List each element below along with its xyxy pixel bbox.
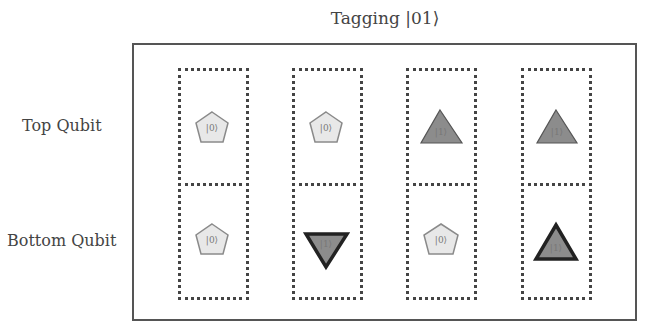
col4-bottom-triangle-up-icon: |1⟩ bbox=[536, 225, 576, 259]
ket-label: |0⟩ bbox=[206, 123, 218, 134]
col2-bottom-triangle-down-icon: |1⟩ bbox=[306, 234, 347, 267]
qubit-shapes: |0⟩ |0⟩ |0⟩ |1⟩ |1⟩ |0⟩ |1⟩ |1⟩ bbox=[0, 0, 650, 333]
col3-top-triangle-up-icon: |1⟩ bbox=[421, 110, 462, 143]
col2-top-pentagon-icon: |0⟩ bbox=[310, 112, 342, 142]
ket-label: |1⟩ bbox=[435, 127, 447, 138]
ket-label: |1⟩ bbox=[550, 243, 562, 254]
col1-top-pentagon-icon: |0⟩ bbox=[196, 112, 228, 142]
ket-label: |0⟩ bbox=[320, 123, 332, 134]
ket-label: |0⟩ bbox=[206, 235, 218, 246]
col4-top-triangle-up-icon: |1⟩ bbox=[537, 110, 577, 143]
ket-label: |0⟩ bbox=[435, 235, 447, 246]
col1-bottom-pentagon-icon: |0⟩ bbox=[196, 224, 228, 254]
ket-label: |1⟩ bbox=[320, 239, 332, 250]
col3-bottom-pentagon-icon: |0⟩ bbox=[424, 224, 458, 254]
ket-label: |1⟩ bbox=[551, 127, 563, 138]
